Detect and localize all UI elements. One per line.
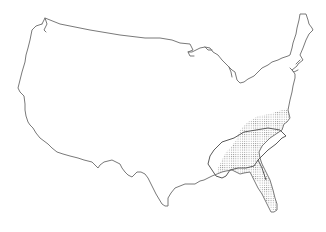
map-figure: Continental United States outline Southe…	[0, 0, 326, 232]
us-map	[0, 0, 326, 232]
stippled-range-region	[215, 108, 292, 210]
great-lakes-detail	[188, 47, 300, 77]
